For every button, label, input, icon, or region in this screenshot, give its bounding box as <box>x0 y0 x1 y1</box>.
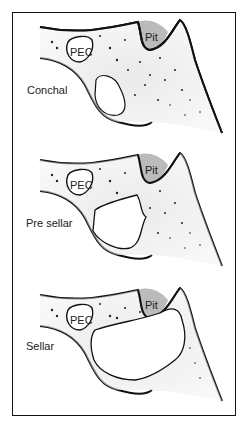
pit-label: Pit <box>145 299 158 311</box>
panel-conchal: PEC Pit Conchal <box>27 20 222 133</box>
pec-label: PEC <box>70 179 93 191</box>
pit-label: Pit <box>145 31 158 43</box>
panel-label: Conchal <box>27 84 67 96</box>
panel-pre-sellar: PEC Pit Pre sellar <box>26 153 222 266</box>
panel-label: Pre sellar <box>26 217 73 229</box>
sphenoid-pneumatization-diagram: PEC Pit Conchal PEC Pit Pre sellar <box>0 0 249 426</box>
pit-label: Pit <box>145 164 158 176</box>
panel-sellar: PEC Pit Sellar <box>26 288 222 401</box>
pec-label: PEC <box>70 46 93 58</box>
pec-label: PEC <box>70 314 93 326</box>
panel-label: Sellar <box>26 340 54 352</box>
